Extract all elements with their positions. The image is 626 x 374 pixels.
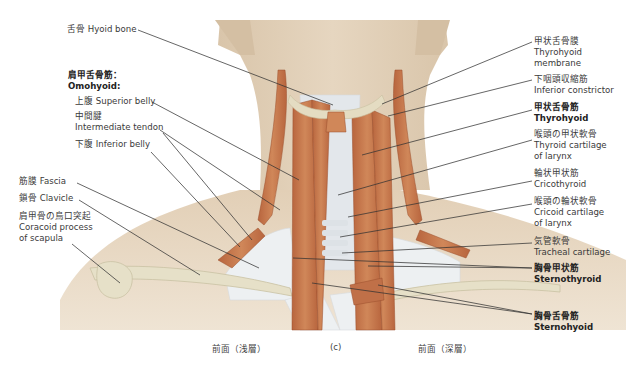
- label-clavicle-jp: 鎖骨: [19, 193, 37, 203]
- label-cricoid-cartilage: 喉頭の輪状軟骨 Cricoid cartilage of larynx: [534, 196, 604, 229]
- label-thyroid-cartilage-en1: Thyroid cartilage: [534, 140, 607, 151]
- label-thyrohyoid-membrane-en2: membrane: [534, 58, 582, 69]
- label-omohyoid-title: 肩甲舌骨筋： Omohyoid:: [68, 70, 122, 92]
- label-coracoid-process: 肩甲骨の烏口突起 Coracoid process of scapula: [19, 211, 93, 244]
- label-sternohyoid: 胸骨舌骨筋 Sternohyoid: [534, 311, 593, 333]
- label-tracheal-cartilage-en: Tracheal cartilage: [534, 247, 610, 258]
- label-cricothyroid-jp: 輪状甲状筋: [534, 168, 586, 179]
- label-cricoid-cartilage-en1: Cricoid cartilage: [534, 207, 604, 218]
- label-omohyoid-jp: 肩甲舌骨筋：: [68, 70, 122, 81]
- label-inferior-constrictor: 下咽頭収縮筋 Inferior constrictor: [534, 74, 614, 96]
- label-fascia-jp: 筋膜: [19, 176, 37, 186]
- label-intermediate-tendon: 中間腱 Intermediate tendon: [75, 111, 163, 133]
- label-tracheal-cartilage-jp: 気管軟骨: [534, 236, 610, 247]
- label-sternothyroid: 胸骨甲状筋 Sternothyroid: [534, 263, 601, 285]
- label-thyroid-cartilage: 喉頭の甲状軟骨 Thyroid cartilage of larynx: [534, 129, 607, 162]
- caption-panel-label: (c): [330, 342, 341, 352]
- label-tracheal-cartilage: 気管軟骨 Tracheal cartilage: [534, 236, 610, 258]
- label-clavicle: 鎖骨 Clavicle: [19, 193, 73, 204]
- label-superior-belly: 上腹 Superior belly: [75, 96, 155, 107]
- label-sternohyoid-jp: 胸骨舌骨筋: [534, 311, 593, 322]
- label-intermediate-tendon-jp: 中間腱: [75, 111, 163, 122]
- label-thyrohyoid-jp: 甲状舌骨筋: [534, 102, 588, 113]
- label-thyroid-cartilage-en2: of larynx: [534, 151, 607, 162]
- label-thyroid-cartilage-jp: 喉頭の甲状軟骨: [534, 129, 607, 140]
- label-intermediate-tendon-en: Intermediate tendon: [75, 122, 163, 133]
- label-superior-belly-en: Superior belly: [96, 96, 156, 106]
- label-superior-belly-jp: 上腹: [75, 96, 93, 106]
- label-cricothyroid-en: Cricothyroid: [534, 179, 586, 190]
- label-cricothyroid: 輪状甲状筋 Cricothyroid: [534, 168, 586, 190]
- neck-illustration: [0, 0, 626, 374]
- label-cricoid-cartilage-en2: of larynx: [534, 218, 604, 229]
- label-inferior-constrictor-en: Inferior constrictor: [534, 85, 614, 96]
- label-omohyoid-en: Omohyoid:: [68, 81, 122, 92]
- label-sternothyroid-jp: 胸骨甲状筋: [534, 263, 601, 274]
- label-clavicle-en: Clavicle: [40, 193, 74, 203]
- label-thyrohyoid-membrane-jp: 甲状舌骨膜: [534, 36, 582, 47]
- label-thyrohyoid-membrane: 甲状舌骨膜 Thyrohyoid membrane: [534, 36, 582, 69]
- label-sternohyoid-en: Sternohyoid: [534, 322, 593, 333]
- label-coracoid-jp: 肩甲骨の烏口突起: [19, 211, 93, 222]
- label-hyoid-jp: 舌骨: [67, 24, 85, 34]
- label-fascia: 筋膜 Fascia: [19, 176, 66, 187]
- caption-anterior-deep: 前面（深層）: [418, 342, 472, 354]
- caption-anterior-superficial: 前面（浅層）: [212, 342, 266, 354]
- anatomy-figure: 舌骨 Hyoid bone 肩甲舌骨筋： Omohyoid: 上腹 Superi…: [0, 0, 626, 374]
- label-inferior-belly: 下腹 Inferior belly: [75, 139, 150, 150]
- label-inferior-belly-en: Inferior belly: [96, 139, 150, 149]
- label-thyrohyoid-membrane-en1: Thyrohyoid: [534, 47, 582, 58]
- label-hyoid-en: Hyoid bone: [88, 24, 137, 34]
- label-coracoid-en1: Coracoid process: [19, 222, 93, 233]
- label-sternothyroid-en: Sternothyroid: [534, 274, 601, 285]
- label-cricoid-cartilage-jp: 喉頭の輪状軟骨: [534, 196, 604, 207]
- label-inferior-constrictor-jp: 下咽頭収縮筋: [534, 74, 614, 85]
- label-thyrohyoid-en: Thyrohyoid: [534, 113, 588, 124]
- label-hyoid-bone: 舌骨 Hyoid bone: [67, 24, 137, 35]
- label-fascia-en: Fascia: [40, 176, 66, 186]
- label-coracoid-en2: of scapula: [19, 233, 93, 244]
- label-thyrohyoid: 甲状舌骨筋 Thyrohyoid: [534, 102, 588, 124]
- label-inferior-belly-jp: 下腹: [75, 139, 93, 149]
